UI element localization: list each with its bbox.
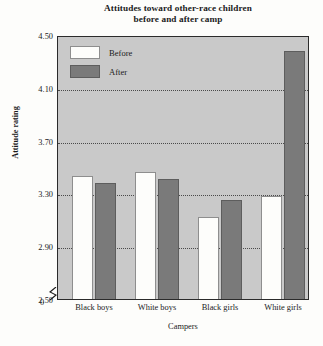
y-axis-label: Attitude rating — [11, 91, 20, 175]
bar-before-white-girls — [261, 196, 282, 299]
x-axis-label: Campers — [57, 322, 309, 331]
chart-title-line-2: before and after camp — [58, 14, 298, 25]
bar-after-white-girls — [284, 51, 305, 299]
x-axis-ticks: Black boys White boys Black girls White … — [57, 303, 309, 319]
bar-after-black-boys — [95, 183, 116, 299]
bar-series-container — [58, 37, 308, 299]
bar-group-white-girls — [261, 37, 305, 299]
chart-title-line-1: Attitudes toward other-race children — [58, 3, 298, 14]
bar-group-black-boys — [72, 37, 116, 299]
chart-title: Attitudes toward other-race children bef… — [58, 3, 298, 25]
x-tick-white-boys: White boys — [125, 303, 189, 312]
y-tick-4.10: 4.10 — [13, 84, 57, 93]
bar-after-black-girls — [221, 200, 242, 299]
bar-group-black-girls — [198, 37, 242, 299]
x-tick-black-boys: Black boys — [62, 303, 126, 312]
plot-area: Before After — [57, 36, 309, 300]
y-tick-4.50: 4.50 — [13, 32, 57, 41]
bar-before-white-boys — [135, 172, 156, 299]
x-tick-black-girls: Black girls — [188, 303, 252, 312]
y-tick-2.90: 2.90 — [13, 243, 57, 252]
bar-group-white-boys — [135, 37, 179, 299]
bar-before-black-boys — [72, 176, 93, 299]
bar-after-white-boys — [158, 179, 179, 299]
axis-break: 0 — [40, 289, 58, 309]
axis-break-zero-label: 0 — [40, 298, 44, 307]
y-tick-3.30: 3.30 — [13, 190, 57, 199]
y-tick-3.70: 3.70 — [13, 137, 57, 146]
x-tick-white-girls: White girls — [251, 303, 315, 312]
chart-figure: Attitudes toward other-race children bef… — [0, 0, 323, 346]
bar-before-black-girls — [198, 217, 219, 299]
